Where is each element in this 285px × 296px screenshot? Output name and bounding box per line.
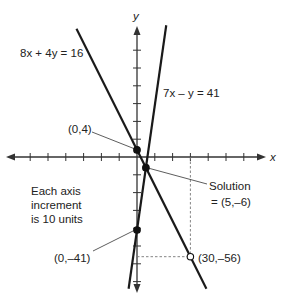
graph: x y 8x + 4y = 16 7x – y = 41 (0,4) Solut…: [0, 0, 285, 296]
x-axis-label: x: [269, 151, 277, 163]
y-axis-label: y: [132, 10, 140, 22]
note-line-1: Each axis: [31, 185, 81, 197]
x-axis-arrow-left-icon: [6, 154, 15, 161]
note-line-2: increment: [31, 199, 82, 211]
leader-0-neg41: [93, 230, 135, 251]
point-label-solution: Solution: [209, 180, 251, 192]
note-line-3: is 10 units: [31, 213, 83, 225]
x-axis-arrow-right-icon: [257, 154, 266, 161]
leader-solution: [148, 168, 207, 184]
point-label-solution-value: = (5,–6): [211, 196, 251, 208]
point-label-0-neg41: (0,–41): [54, 252, 91, 264]
equation-label-8x-4y-16: 8x + 4y = 16: [20, 47, 83, 59]
equation-label-7x-y-41: 7x – y = 41: [163, 87, 220, 99]
point-30-neg56: [187, 253, 193, 259]
point-0-neg41: [134, 227, 141, 234]
point-solution: [143, 164, 150, 171]
point-label-0-4: (0,4): [68, 123, 92, 135]
point-0-4: [134, 147, 141, 154]
y-axis-arrow-down-icon: [134, 284, 141, 293]
y-axis-arrow-up-icon: [134, 26, 141, 35]
point-label-30-neg56: (30,–56): [198, 252, 241, 264]
